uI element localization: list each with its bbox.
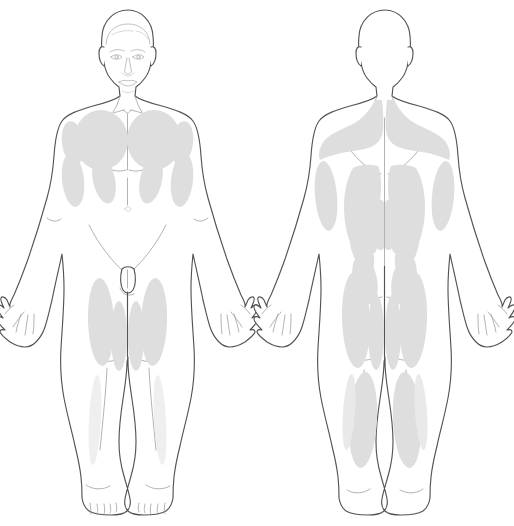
region-right-erector-spinae-inner[interactable] [377,200,384,250]
region-right-hamstring-medial[interactable] [368,294,384,370]
region-left-hamstring-medial[interactable] [385,294,401,370]
body-map-canvas [0,0,514,526]
posterior-ear-right [356,47,361,66]
region-right-quadriceps-medial[interactable] [111,301,127,371]
body-map-diagram [0,0,514,526]
anterior-groin [121,267,136,293]
region-left-quadriceps-medial[interactable] [128,301,144,371]
posterior-ear-left [408,47,413,66]
anterior-ear-right [99,47,104,66]
posterior-body-outline [254,10,514,515]
anterior-ear-left [151,47,156,66]
region-left-erector-spinae-inner[interactable] [385,200,392,250]
figure-anterior[interactable] [0,10,258,515]
figure-posterior[interactable] [254,10,514,515]
